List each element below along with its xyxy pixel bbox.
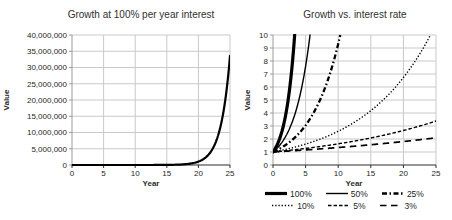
legend-label: 5% bbox=[353, 201, 365, 211]
y-tick-label: 5,000,000 bbox=[31, 145, 67, 154]
legend-item-25%: 25% bbox=[381, 189, 424, 199]
x-tick-label: 25 bbox=[226, 169, 235, 178]
y-tick-label: 0 bbox=[63, 161, 68, 170]
legend-line-sample-icon bbox=[379, 201, 403, 210]
x-tick-label: 10 bbox=[334, 169, 343, 178]
series-curve-25% bbox=[273, 35, 340, 152]
legend-line-sample-icon bbox=[271, 201, 295, 210]
y-tick-label: 5 bbox=[264, 96, 269, 105]
y-tick-label: 10,000,000 bbox=[27, 128, 68, 137]
y-tick-label: 4 bbox=[264, 109, 269, 118]
legend-item-5%: 5% bbox=[327, 201, 365, 211]
series-curve-100% bbox=[273, 35, 295, 152]
legend-row: 10%5%3% bbox=[238, 200, 450, 211]
x-tick-label: 5 bbox=[101, 169, 106, 178]
x-tick-label: 0 bbox=[271, 169, 276, 178]
x-axis-title: Year bbox=[346, 179, 363, 188]
chart-title: Growth at 100% per year interest bbox=[68, 9, 215, 20]
y-tick-label: 1 bbox=[264, 148, 269, 157]
legend-label: 25% bbox=[407, 189, 424, 199]
series-curves bbox=[273, 35, 436, 152]
y-tick-label: 3 bbox=[264, 122, 269, 131]
y-tick-label: 40,000,000 bbox=[27, 31, 68, 40]
legend-label: 3% bbox=[405, 201, 417, 211]
legend-row: 100%50%25% bbox=[238, 188, 450, 199]
x-tick-label: 10 bbox=[131, 169, 140, 178]
legend-label: 50% bbox=[351, 189, 368, 199]
y-axis-title: Value bbox=[243, 89, 252, 110]
growth-vs-interest-rate-chart: Growth vs. interest rate Year Value 0123… bbox=[236, 0, 452, 220]
x-tick-label: 20 bbox=[194, 169, 203, 178]
y-tick-label: 10 bbox=[259, 31, 268, 40]
y-tick-label: 20,000,000 bbox=[27, 96, 68, 105]
y-tick-label: 2 bbox=[264, 135, 269, 144]
legend-line-sample-icon bbox=[327, 201, 351, 210]
y-tick-label: 25,000,000 bbox=[27, 80, 68, 89]
plot-area: 05,000,00010,000,00015,000,00020,000,000… bbox=[27, 31, 235, 178]
legend-line-sample-icon bbox=[325, 189, 349, 198]
x-tick-label: 5 bbox=[303, 169, 308, 178]
x-tick-label: 25 bbox=[432, 169, 441, 178]
series-curve-3% bbox=[273, 138, 436, 152]
legend-item-50%: 50% bbox=[325, 189, 368, 199]
legend-line-sample-icon bbox=[264, 189, 288, 198]
y-tick-label: 6 bbox=[264, 83, 269, 92]
x-axis-title: Year bbox=[143, 179, 160, 188]
legend-label: 10% bbox=[297, 201, 314, 211]
chart-panel: Growth at 100% per year interest Year Va… bbox=[0, 0, 452, 220]
y-tick-label: 30,000,000 bbox=[27, 63, 68, 72]
y-tick-label: 9 bbox=[264, 44, 269, 53]
chart-title: Growth vs. interest rate bbox=[303, 9, 407, 20]
x-tick-label: 15 bbox=[366, 169, 375, 178]
y-tick-label: 0 bbox=[264, 161, 269, 170]
y-tick-label: 7 bbox=[264, 70, 269, 79]
y-tick-label: 35,000,000 bbox=[27, 47, 68, 56]
growth-at-100pct-chart: Growth at 100% per year interest Year Va… bbox=[0, 0, 236, 220]
legend-item-10%: 10% bbox=[271, 201, 314, 211]
x-tick-label: 20 bbox=[399, 169, 408, 178]
y-axis-title: Value bbox=[2, 89, 11, 110]
legend: 100%50%25%10%5%3% bbox=[238, 188, 450, 211]
series-curve-10% bbox=[273, 35, 431, 152]
y-tick-label: 15,000,000 bbox=[27, 112, 68, 121]
x-tick-label: 15 bbox=[162, 169, 171, 178]
x-tick-label: 0 bbox=[70, 169, 75, 178]
legend-item-3%: 3% bbox=[379, 201, 417, 211]
series-curve-50% bbox=[273, 35, 310, 152]
legend-label: 100% bbox=[290, 189, 312, 199]
plot-area: 0123456789100510152025 bbox=[259, 31, 441, 178]
legend-line-sample-icon bbox=[381, 189, 405, 198]
y-tick-label: 8 bbox=[264, 57, 269, 66]
legend-item-100%: 100% bbox=[264, 189, 312, 199]
